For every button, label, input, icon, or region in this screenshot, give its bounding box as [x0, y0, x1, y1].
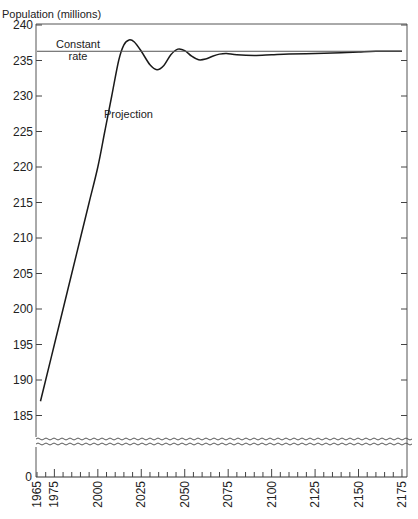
- constant-rate-label-line1: Constant: [48, 38, 108, 50]
- y-tick-label: 210: [13, 231, 33, 245]
- y-tick-label: 190: [13, 373, 33, 387]
- y-tick-label: 235: [13, 54, 33, 68]
- y-tick-label: 240: [13, 18, 33, 32]
- y-tick-label: 185: [13, 409, 33, 423]
- y-tick-label: 195: [13, 338, 33, 352]
- y-tick-label: 225: [13, 125, 33, 139]
- projection-line: [40, 40, 402, 402]
- x-tick-label: 2100: [265, 481, 279, 508]
- x-tick-label: 2150: [352, 481, 366, 508]
- y-tick-label: 205: [13, 267, 33, 281]
- y-tick-label: 220: [13, 160, 33, 174]
- x-tick-label: 2175: [395, 481, 409, 508]
- y-axis-title: Population (millions): [2, 8, 101, 20]
- y-tick-label: 200: [13, 302, 33, 316]
- y-tick-label: 215: [13, 196, 33, 210]
- x-tick-label: 2025: [134, 481, 148, 508]
- x-tick-label: 2125: [308, 481, 322, 508]
- y-tick-label: 230: [13, 89, 33, 103]
- constant-rate-annotation: Constant rate: [48, 38, 108, 62]
- projection-annotation: Projection: [104, 108, 153, 120]
- axis-break-line-1: [36, 438, 412, 440]
- x-tick-label: 1965: [30, 481, 44, 508]
- constant-rate-label-line2: rate: [48, 50, 108, 62]
- x-tick-label: 2050: [178, 481, 192, 508]
- x-tick-label: 2000: [91, 481, 105, 508]
- population-chart: 1851901952002052102152202252302352400196…: [0, 0, 418, 519]
- axis-break-line-2: [36, 443, 412, 445]
- x-tick-label: 2075: [221, 481, 235, 508]
- x-tick-label: 1975: [47, 481, 61, 508]
